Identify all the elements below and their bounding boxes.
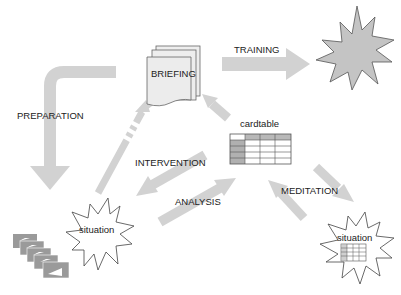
stacked-cards[interactable] — [13, 234, 69, 278]
training-label: TRAINING — [234, 44, 279, 55]
briefing-label: BRIEFING — [151, 68, 196, 79]
intervention-label: INTERVENTION — [135, 157, 206, 168]
diagram-canvas: BRIEFING TRAINING PREPARATION cardtable … — [0, 0, 401, 295]
situation-left-label: situation — [79, 224, 114, 235]
situation-right-starburst[interactable]: situation — [320, 212, 394, 284]
arrow-cardtable-to-briefing — [202, 94, 228, 118]
outcome-starburst[interactable] — [316, 6, 394, 90]
analysis-label: ANALYSIS — [175, 196, 221, 207]
cardtable-grid — [230, 134, 291, 164]
card — [43, 262, 69, 278]
arrow-preparation — [30, 72, 116, 190]
situation-right-table-icon — [341, 244, 366, 261]
starburst-filled-shape — [316, 6, 394, 90]
cardtable-label: cardtable — [240, 118, 279, 129]
cardtable-node[interactable]: cardtable — [230, 118, 291, 164]
situation-left-starburst[interactable]: situation — [66, 198, 134, 270]
briefing-document-stack[interactable]: BRIEFING — [147, 46, 200, 106]
preparation-label: PREPARATION — [17, 110, 84, 121]
arrow-situation-to-briefing — [98, 98, 152, 193]
situation-right-label: situation — [337, 232, 372, 243]
meditation-label: MEDITATION — [281, 185, 338, 196]
